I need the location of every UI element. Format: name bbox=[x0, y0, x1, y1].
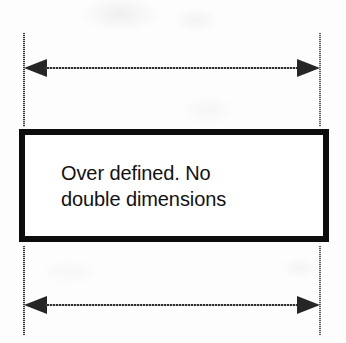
note-line-1: Over defined. No bbox=[25, 160, 323, 186]
right-extension-line-bottom bbox=[319, 246, 321, 335]
note-line-2: double dimensions bbox=[25, 186, 323, 212]
left-extension-line-bottom bbox=[23, 246, 25, 335]
top-dimension-shaft bbox=[44, 67, 300, 69]
bottom-dimension-line bbox=[24, 303, 320, 306]
diagram-canvas: Over defined. No double dimensions bbox=[0, 0, 346, 343]
note-box: Over defined. No double dimensions bbox=[19, 129, 329, 242]
top-right-arrowhead-icon bbox=[297, 59, 320, 77]
bottom-right-arrowhead-icon bbox=[297, 296, 320, 314]
right-extension-line-top bbox=[319, 33, 321, 127]
top-dimension-line bbox=[24, 66, 320, 69]
bottom-dimension-shaft bbox=[44, 304, 300, 306]
left-extension-line-top bbox=[23, 33, 25, 127]
